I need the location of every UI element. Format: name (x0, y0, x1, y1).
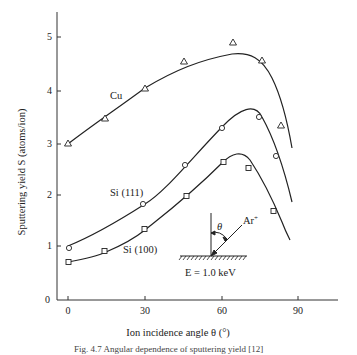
label-cu: Cu (110, 90, 123, 101)
x-tick-0: 0 (66, 305, 71, 316)
label-si100: Si (100) (123, 244, 158, 256)
sputtering-yield-chart: 0 1 2 3 4 5 0 30 60 90 Ion incidence ang… (0, 0, 357, 355)
ion-symbol: Ar (243, 215, 255, 226)
y-tick-1: 1 (47, 240, 52, 251)
label-si111: Si (111) (110, 187, 144, 199)
y-tick-5: 5 (47, 31, 52, 42)
x-tick-90: 90 (293, 305, 303, 316)
cu-markers (65, 39, 285, 146)
surface-hatching (179, 256, 246, 260)
x-tick-60: 60 (217, 305, 227, 316)
label-theta: θ (217, 221, 222, 232)
si111-markers (66, 114, 278, 250)
y-tick-2: 2 (47, 189, 52, 200)
y-tick-3: 3 (47, 138, 52, 149)
si100-curve (68, 154, 290, 262)
si111-curve (68, 109, 292, 246)
incidence-diagram (179, 213, 247, 260)
curves (68, 54, 292, 262)
y-axis-title: Sputtering yield S (atoms/ion) (16, 108, 28, 235)
label-ion: Ar+ (243, 214, 258, 226)
y-tick-0: 0 (45, 294, 50, 305)
cu-curve (68, 54, 292, 148)
x-tick-labels: 0 30 60 90 (66, 305, 304, 316)
si100-markers (66, 160, 276, 265)
arc-arrow-icon (211, 231, 215, 235)
y-tick-labels: 0 1 2 3 4 5 (45, 31, 52, 305)
label-energy: E = 1.0 keV (185, 267, 236, 278)
y-tick-4: 4 (47, 85, 52, 96)
x-tick-30: 30 (140, 305, 150, 316)
x-axis-title: Ion incidence angle θ (°) (126, 327, 230, 339)
ion-charge: + (254, 214, 258, 222)
figure-caption: Fig. 4.7 Angular dependence of sputterin… (74, 344, 263, 354)
